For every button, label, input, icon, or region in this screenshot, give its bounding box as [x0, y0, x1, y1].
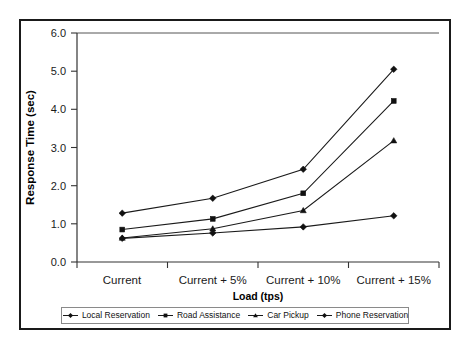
- data-point-marker: [301, 191, 306, 196]
- data-point-marker: [119, 235, 125, 241]
- legend-item-label: Local Reservation: [82, 311, 150, 320]
- data-point-marker: [300, 224, 306, 230]
- x-tick-label-3: Current + 15%: [356, 274, 430, 286]
- x-tick-marks: [77, 262, 439, 268]
- legend-marker-diamond-icon: [62, 311, 79, 320]
- legend-item-label: Phone Reservation: [336, 311, 408, 320]
- series-local-reservation: [119, 66, 397, 216]
- x-axis-title: Load (tps): [233, 290, 284, 302]
- legend-marker-diamond-icon: [316, 311, 333, 320]
- series-road-assistance: [120, 99, 396, 232]
- chart-legend: Local ReservationRoad AssistanceCar Pick…: [61, 307, 409, 324]
- series-line: [122, 101, 394, 230]
- data-point-marker: [210, 195, 216, 201]
- legend-marker-square-icon: [157, 311, 174, 320]
- y-tick-label-6: 6.0: [51, 27, 66, 39]
- legend-item: Phone Reservation: [316, 311, 408, 320]
- data-point-marker: [391, 213, 397, 219]
- data-series-layer: [119, 66, 397, 242]
- y-tick-label-5: 5.0: [51, 65, 66, 77]
- x-tick-label-2: Current + 10%: [266, 274, 340, 286]
- data-point-marker: [391, 138, 397, 143]
- legend-marker-triangle-icon: [247, 311, 264, 320]
- x-tick-label-0: Current: [103, 274, 142, 286]
- y-axis-title: Response Time (sec): [24, 90, 36, 205]
- data-point-marker: [391, 99, 396, 104]
- series-line: [122, 141, 394, 238]
- data-point-marker: [120, 227, 125, 232]
- y-tick-label-3: 3.0: [51, 142, 66, 154]
- legend-item: Road Assistance: [157, 311, 240, 320]
- data-point-marker: [210, 216, 215, 221]
- y-tick-label-1: 1.0: [51, 218, 66, 230]
- y-tick-label-0: 0.0: [51, 256, 66, 268]
- series-line: [122, 69, 394, 213]
- chart-figure: 6.0 5.0 4.0 3.0 2.0 1.0 0.0 Response Tim…: [0, 0, 470, 349]
- legend-item: Local Reservation: [62, 311, 150, 320]
- legend-item: Car Pickup: [247, 311, 309, 320]
- y-tick-label-4: 4.0: [51, 103, 66, 115]
- plot-container: 6.0 5.0 4.0 3.0 2.0 1.0 0.0 Response Tim…: [0, 0, 470, 349]
- legend-item-label: Road Assistance: [177, 311, 240, 320]
- y-tick-marks: [71, 33, 77, 262]
- line-chart-svg: 6.0 5.0 4.0 3.0 2.0 1.0 0.0 Response Tim…: [0, 0, 470, 349]
- y-tick-label-2: 2.0: [51, 180, 66, 192]
- series-phone-reservation: [119, 213, 397, 242]
- legend-item-label: Car Pickup: [267, 311, 309, 320]
- data-point-marker: [119, 210, 125, 216]
- x-tick-label-1: Current + 5%: [179, 274, 247, 286]
